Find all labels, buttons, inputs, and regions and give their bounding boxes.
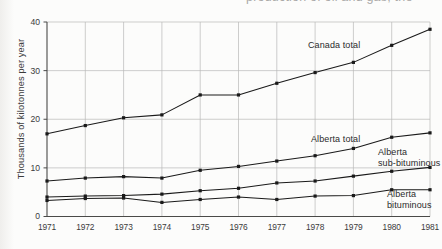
series-0-point-0 — [45, 132, 48, 135]
series-1-point-3 — [160, 176, 163, 179]
x-tick-1978: 1978 — [306, 222, 324, 232]
series-0-point-5 — [237, 93, 240, 96]
series-1-point-5 — [237, 165, 240, 168]
x-tick-1979: 1979 — [344, 222, 362, 232]
series-3-point-2 — [122, 196, 125, 199]
series-1-point-4 — [199, 169, 202, 172]
x-tick-1980: 1980 — [383, 222, 401, 232]
series-label-canada-total-line1: Canada total — [308, 40, 360, 51]
series-0-point-10 — [428, 28, 431, 31]
series-label-alberta-total: Alberta total — [311, 134, 360, 145]
series-3-point-1 — [84, 197, 87, 200]
series-2-point-3 — [160, 193, 163, 196]
series-2-point-5 — [237, 187, 240, 190]
x-tick-1977: 1977 — [268, 222, 286, 232]
series-0-point-7 — [314, 71, 317, 74]
series-label-alberta-bituminous-line2: bituminous — [387, 200, 432, 211]
x-tick-1971: 1971 — [38, 222, 56, 232]
series-2-point-8 — [352, 175, 355, 178]
series-1-point-8 — [352, 147, 355, 150]
series-3-point-8 — [352, 194, 355, 197]
x-tick-1975: 1975 — [191, 222, 209, 232]
series-0-point-2 — [122, 116, 125, 119]
series-0-point-4 — [199, 93, 202, 96]
series-0-point-9 — [390, 44, 393, 47]
series-label-alberta-total-line1: Alberta total — [311, 134, 360, 145]
line-chart: Thousands of kilotonnes per year 40 30 2… — [0, 0, 442, 249]
series-3-point-4 — [199, 198, 202, 201]
series-0-point-8 — [352, 61, 355, 64]
x-tick-1973: 1973 — [114, 222, 132, 232]
series-3-point-7 — [314, 194, 317, 197]
x-tick-1974: 1974 — [153, 222, 171, 232]
series-label-canada-total: Canada total — [308, 40, 360, 51]
series-3-point-3 — [160, 201, 163, 204]
series-label-alberta-sub-bituminous-line1: Alberta — [378, 147, 440, 158]
series-2-point-6 — [275, 181, 278, 184]
series-label-alberta-sub-bituminous: Alberta sub-bituminous — [378, 147, 440, 168]
series-1-point-6 — [275, 159, 278, 162]
series-1-point-10 — [428, 131, 431, 134]
plot-area — [0, 0, 442, 249]
series-2-point-0 — [45, 195, 48, 198]
series-3-point-0 — [45, 199, 48, 202]
series-2-point-7 — [314, 179, 317, 182]
series-0-point-6 — [275, 82, 278, 85]
series-2-point-9 — [390, 170, 393, 173]
series-1-point-0 — [45, 179, 48, 182]
series-label-alberta-bituminous-line1: Alberta — [387, 189, 432, 200]
series-0-point-3 — [160, 113, 163, 116]
x-tick-1981: 1981 — [421, 222, 439, 232]
series-label-alberta-bituminous: Alberta bituminous — [387, 189, 432, 210]
series-2-point-4 — [199, 189, 202, 192]
x-tick-1976: 1976 — [229, 222, 247, 232]
series-label-alberta-sub-bituminous-line2: sub-bituminous — [378, 158, 440, 169]
x-tick-1972: 1972 — [76, 222, 94, 232]
series-1-point-2 — [122, 175, 125, 178]
series-3-point-5 — [237, 195, 240, 198]
series-0-point-1 — [84, 124, 87, 127]
series-3-point-6 — [275, 198, 278, 201]
series-1-point-1 — [84, 176, 87, 179]
series-1-point-9 — [390, 136, 393, 139]
series-1-point-7 — [314, 154, 317, 157]
